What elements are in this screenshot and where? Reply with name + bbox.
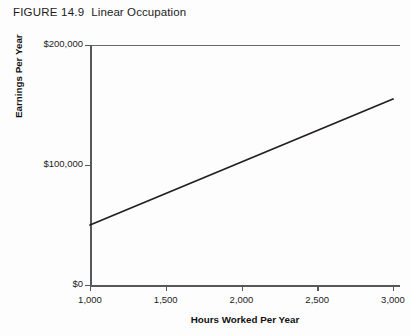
- y-tick-label: $100,000: [43, 158, 83, 169]
- x-tick-label: 2,500: [305, 294, 329, 305]
- x-tick-mark: [242, 285, 243, 291]
- x-axis-line: [90, 285, 400, 287]
- y-tick-mark: [85, 165, 91, 166]
- y-tick-label: $200,000: [43, 38, 83, 49]
- y-tick-label: $0: [72, 278, 83, 289]
- figure-container: FIGURE 14.9Linear Occupation $0 $100,000…: [0, 0, 411, 336]
- x-tick-label: 1,500: [154, 294, 178, 305]
- figure-name: Linear Occupation: [91, 6, 186, 18]
- x-tick-mark: [90, 285, 91, 291]
- figure-title: FIGURE 14.9Linear Occupation: [13, 6, 186, 18]
- x-axis-title: Hours Worked Per Year: [90, 314, 400, 325]
- plot-top-border: [90, 45, 400, 46]
- y-tick-mark: [85, 45, 91, 46]
- x-tick-mark: [317, 285, 318, 291]
- figure-number: FIGURE 14.9: [13, 6, 84, 18]
- x-tick-label: 3,000: [381, 294, 405, 305]
- x-tick-mark: [166, 285, 167, 291]
- y-axis-title: Earnings Per Year: [13, 34, 24, 118]
- x-tick-label: 1,000: [78, 294, 102, 305]
- x-tick-label: 2,000: [230, 294, 254, 305]
- x-tick-mark: [393, 285, 394, 291]
- data-series-line: [90, 99, 393, 225]
